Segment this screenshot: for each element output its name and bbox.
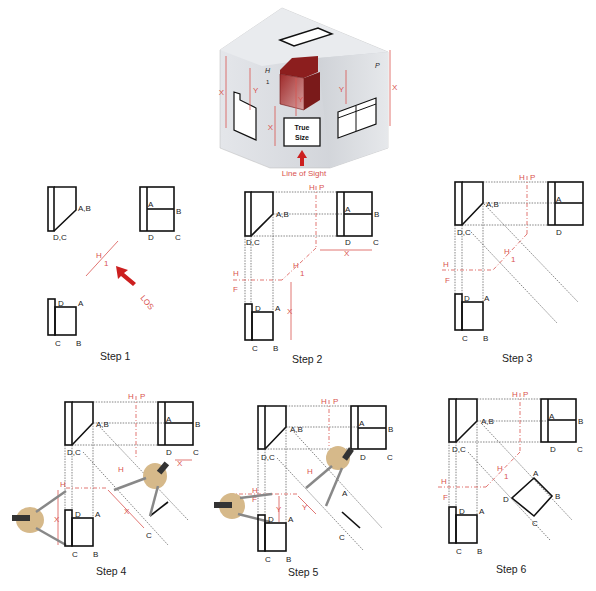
auxiliary-view-diagram: True Size X Y X Y Y X H 1 P Line of Sigh… xyxy=(0,0,596,591)
svg-text:D: D xyxy=(58,299,64,308)
step-1-panel: A,B D,C A B D C H 1 LOS D A C B Step 1 xyxy=(48,187,181,362)
svg-text:C: C xyxy=(146,531,152,540)
svg-text:1: 1 xyxy=(511,255,516,264)
svg-text:A: A xyxy=(484,294,490,303)
svg-text:D: D xyxy=(345,238,351,247)
svg-text:X: X xyxy=(124,507,130,516)
svg-text:B: B xyxy=(578,417,583,426)
svg-text:D,C: D,C xyxy=(67,448,81,457)
svg-text:A: A xyxy=(78,299,84,308)
svg-text:D: D xyxy=(556,228,562,237)
svg-text:A: A xyxy=(479,507,485,516)
svg-text:B: B xyxy=(286,555,291,564)
svg-text:B: B xyxy=(374,210,379,219)
svg-text:A: A xyxy=(275,304,281,313)
svg-text:C: C xyxy=(532,519,538,528)
step-label: Step 6 xyxy=(496,563,527,575)
svg-text:A: A xyxy=(148,200,154,209)
svg-text:LOS: LOS xyxy=(138,294,155,312)
svg-text:A: A xyxy=(166,415,172,424)
svg-text:D,C: D,C xyxy=(261,453,275,462)
step-label: Step 2 xyxy=(292,353,323,365)
svg-text:C: C xyxy=(72,550,78,559)
svg-text:D: D xyxy=(166,448,172,457)
svg-text:H: H xyxy=(60,480,66,489)
svg-text:P: P xyxy=(375,62,380,69)
svg-text:A,B: A,B xyxy=(276,210,289,219)
svg-text:H: H xyxy=(293,261,299,270)
step-6-panel: A,B D,C A B D C H P H 1 H F A B C D D A … xyxy=(438,390,583,575)
glass-box-illustration: True Size X Y X Y Y X H 1 P Line of Sigh… xyxy=(219,8,398,178)
svg-text:D: D xyxy=(268,515,274,524)
svg-text:P: P xyxy=(523,390,528,399)
step-label: Step 4 xyxy=(96,565,127,577)
svg-text:B: B xyxy=(76,339,81,348)
svg-text:A: A xyxy=(95,510,101,519)
svg-text:D: D xyxy=(459,507,465,516)
svg-text:P: P xyxy=(319,183,324,192)
svg-text:H: H xyxy=(441,477,447,486)
svg-text:C: C xyxy=(577,445,583,454)
svg-text:Y: Y xyxy=(339,85,345,94)
compass-icon xyxy=(214,493,272,522)
svg-text:A,B: A,B xyxy=(290,425,303,434)
svg-text:B: B xyxy=(388,425,393,434)
svg-text:A: A xyxy=(359,419,365,428)
svg-text:X: X xyxy=(54,515,60,524)
svg-text:P: P xyxy=(530,173,535,182)
svg-text:C: C xyxy=(175,233,181,242)
svg-text:D: D xyxy=(503,495,509,504)
svg-text:A,B: A,B xyxy=(486,200,499,209)
true-size-box xyxy=(284,118,320,146)
svg-text:H: H xyxy=(497,464,503,473)
svg-text:D: D xyxy=(75,510,81,519)
svg-text:H: H xyxy=(519,173,525,182)
svg-text:F: F xyxy=(443,493,448,502)
svg-text:P: P xyxy=(333,397,338,406)
svg-text:X: X xyxy=(177,459,183,468)
svg-text:X: X xyxy=(392,83,398,92)
svg-text:Y: Y xyxy=(276,505,282,514)
svg-text:A: A xyxy=(345,205,351,214)
svg-text:D,C: D,C xyxy=(246,238,260,247)
svg-text:B: B xyxy=(176,207,181,216)
svg-text:D,C: D,C xyxy=(452,445,466,454)
svg-text:D,C: D,C xyxy=(53,233,67,242)
svg-text:H: H xyxy=(309,183,315,192)
svg-text:A: A xyxy=(556,195,562,204)
step-3-panel: A,B D,C A D H P H 1 H F D A C B Step 3 xyxy=(442,173,583,364)
step-label: Step 5 xyxy=(288,566,319,578)
svg-text:1: 1 xyxy=(300,269,305,278)
svg-text:1: 1 xyxy=(504,472,509,481)
svg-text:Size: Size xyxy=(295,134,309,141)
svg-text:D: D xyxy=(255,304,261,313)
svg-text:Y: Y xyxy=(302,503,308,512)
step-2-panel: A,B D,C A B D C H P H 1 H F X X D A C B … xyxy=(233,183,379,365)
svg-text:A,B: A,B xyxy=(78,204,91,213)
svg-text:X: X xyxy=(344,249,350,258)
svg-text:H: H xyxy=(233,269,239,278)
svg-text:H: H xyxy=(96,251,102,260)
svg-text:H: H xyxy=(307,467,313,476)
svg-text:A: A xyxy=(288,515,294,524)
svg-text:B: B xyxy=(483,334,488,343)
svg-text:D: D xyxy=(464,294,470,303)
svg-text:B: B xyxy=(93,550,98,559)
svg-text:C: C xyxy=(55,339,61,348)
svg-text:C: C xyxy=(373,238,379,247)
svg-text:B: B xyxy=(195,420,200,429)
svg-text:D: D xyxy=(550,445,556,454)
svg-text:A,B: A,B xyxy=(96,420,109,429)
true-size-view xyxy=(512,478,552,516)
svg-text:A: A xyxy=(342,489,348,498)
svg-text:D: D xyxy=(360,453,366,462)
svg-text:Y: Y xyxy=(298,95,304,104)
svg-text:C: C xyxy=(252,344,258,353)
svg-text:H: H xyxy=(504,247,510,256)
svg-text:P: P xyxy=(140,392,145,401)
step-label: Step 3 xyxy=(502,352,533,364)
svg-text:D: D xyxy=(148,233,154,242)
svg-text:H: H xyxy=(252,486,258,495)
svg-text:H: H xyxy=(512,390,518,399)
svg-text:B: B xyxy=(273,344,278,353)
